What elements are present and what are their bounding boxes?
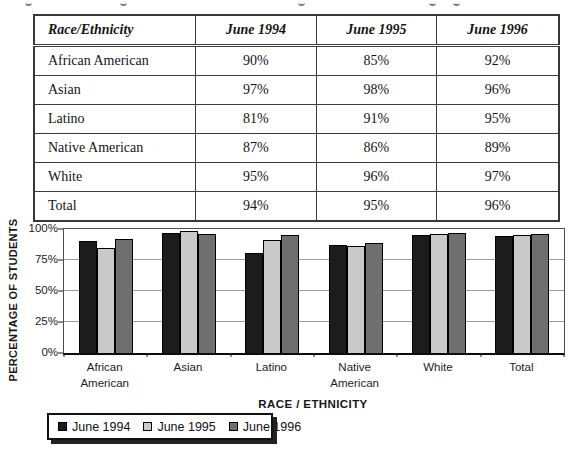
bar-june-1994 xyxy=(162,233,180,353)
table-row: Asian 97% 98% 96% xyxy=(34,76,559,105)
bar-group-total xyxy=(481,229,564,353)
bar-group-african-american xyxy=(64,229,147,353)
x-label-asian: Asian xyxy=(146,360,229,391)
plot-area xyxy=(63,228,565,355)
x-axis-tick xyxy=(564,353,565,357)
x-label-latino: Latino xyxy=(230,360,313,391)
y-tick-label: 100% xyxy=(16,222,58,234)
x-axis-title: RACE / ETHNICITY xyxy=(63,398,563,410)
bar-group-latino xyxy=(231,229,314,353)
cell-value: 98% xyxy=(316,76,436,105)
bar-june-1994 xyxy=(245,253,263,353)
y-axis-tick xyxy=(58,260,63,261)
x-axis-tick xyxy=(480,353,481,357)
bar-june-1995 xyxy=(347,246,365,353)
bar-june-1996 xyxy=(198,234,216,353)
x-label-african-american: African American xyxy=(63,360,146,391)
legend-swatch-june-1994 xyxy=(58,422,67,431)
report-page: Race/Ethnicity June 1994 June 1995 June … xyxy=(0,0,572,451)
cell-value: 97% xyxy=(196,76,316,105)
legend-label: June 1995 xyxy=(157,420,215,434)
x-axis-tick xyxy=(64,353,65,357)
cell-value: 96% xyxy=(437,192,559,222)
bar-june-1996 xyxy=(448,233,466,353)
table-row: Native American 87% 86% 89% xyxy=(34,134,559,163)
table-header-row: Race/Ethnicity June 1994 June 1995 June … xyxy=(34,15,559,46)
bar-group-native-american xyxy=(314,229,397,353)
x-label-white: White xyxy=(396,360,479,391)
x-axis-tick xyxy=(230,353,231,357)
row-label: Latino xyxy=(34,105,196,134)
x-label-total: Total xyxy=(480,360,563,391)
y-tick-label: 0% xyxy=(16,346,58,358)
cell-value: 96% xyxy=(316,163,436,192)
bar-group-white xyxy=(397,229,480,353)
caption-fragment xyxy=(25,0,32,6)
bar-june-1996 xyxy=(531,234,549,353)
bar-june-1996 xyxy=(115,239,133,353)
cell-value: 89% xyxy=(437,134,559,163)
bar-june-1994 xyxy=(495,236,513,353)
table-row: White 95% 96% 97% xyxy=(34,163,559,192)
legend-swatch-june-1996 xyxy=(229,422,238,431)
cell-value: 95% xyxy=(196,163,316,192)
cell-value: 97% xyxy=(437,163,559,192)
chart-legend: June 1994 June 1995 June 1996 xyxy=(47,413,273,440)
table-row: African American 90% 85% 92% xyxy=(34,46,559,76)
legend-item-june-1994: June 1994 xyxy=(58,420,130,434)
row-label: Asian xyxy=(34,76,196,105)
column-header-june-1996: June 1996 xyxy=(437,15,559,46)
table-row: Total 94% 95% 96% xyxy=(34,192,559,222)
y-tick-label: 75% xyxy=(16,253,58,265)
legend-item-june-1996: June 1996 xyxy=(229,420,301,434)
cell-value: 91% xyxy=(316,105,436,134)
bar-groups xyxy=(64,229,564,353)
bar-june-1995 xyxy=(180,231,198,353)
table-row: Latino 81% 91% 95% xyxy=(34,105,559,134)
bar-june-1994 xyxy=(79,241,97,353)
column-header-june-1994: June 1994 xyxy=(196,15,316,46)
x-axis-labels: African American Asian Latino Native Ame… xyxy=(63,360,563,391)
y-tick-label: 25% xyxy=(16,315,58,327)
grouped-bar-chart: PERCENTAGE OF STUDENTS 100% 75% 50% 25% … xyxy=(0,220,572,420)
row-label: African American xyxy=(34,46,196,76)
cell-value: 95% xyxy=(437,105,559,134)
legend-label: June 1996 xyxy=(243,420,301,434)
legend-label: June 1994 xyxy=(72,420,130,434)
cell-value: 94% xyxy=(196,192,316,222)
x-axis-tick xyxy=(147,353,148,357)
caption-fragment xyxy=(298,0,305,6)
row-label: Native American xyxy=(34,134,196,163)
cell-value: 92% xyxy=(437,46,559,76)
bar-june-1996 xyxy=(365,243,383,353)
y-axis-tick xyxy=(58,322,63,323)
row-label: White xyxy=(34,163,196,192)
x-axis-tick xyxy=(314,353,315,357)
cell-value: 95% xyxy=(316,192,436,222)
bar-june-1995 xyxy=(430,234,448,353)
x-axis-tick xyxy=(397,353,398,357)
bar-june-1994 xyxy=(412,235,430,353)
graduation-rate-table: Race/Ethnicity June 1994 June 1995 June … xyxy=(33,14,560,222)
y-axis-tick xyxy=(58,353,63,354)
legend-item-june-1995: June 1995 xyxy=(143,420,215,434)
cell-value: 96% xyxy=(437,76,559,105)
caption-fragment xyxy=(429,0,436,6)
cell-value: 87% xyxy=(196,134,316,163)
y-axis-tick xyxy=(58,229,63,230)
bar-june-1995 xyxy=(513,235,531,353)
bar-group-asian xyxy=(147,229,230,353)
caption-fragment xyxy=(453,0,460,6)
caption-fragment xyxy=(120,0,127,6)
bar-june-1995 xyxy=(263,240,281,353)
cell-value: 90% xyxy=(196,46,316,76)
x-label-native-american: Native American xyxy=(313,360,396,391)
column-header-june-1995: June 1995 xyxy=(316,15,436,46)
bar-june-1995 xyxy=(97,248,115,353)
cell-value: 81% xyxy=(196,105,316,134)
bar-june-1994 xyxy=(329,245,347,353)
cell-value: 85% xyxy=(316,46,436,76)
column-header-race-ethnicity: Race/Ethnicity xyxy=(34,15,196,46)
bar-june-1996 xyxy=(281,235,299,353)
y-axis-tick xyxy=(58,291,63,292)
